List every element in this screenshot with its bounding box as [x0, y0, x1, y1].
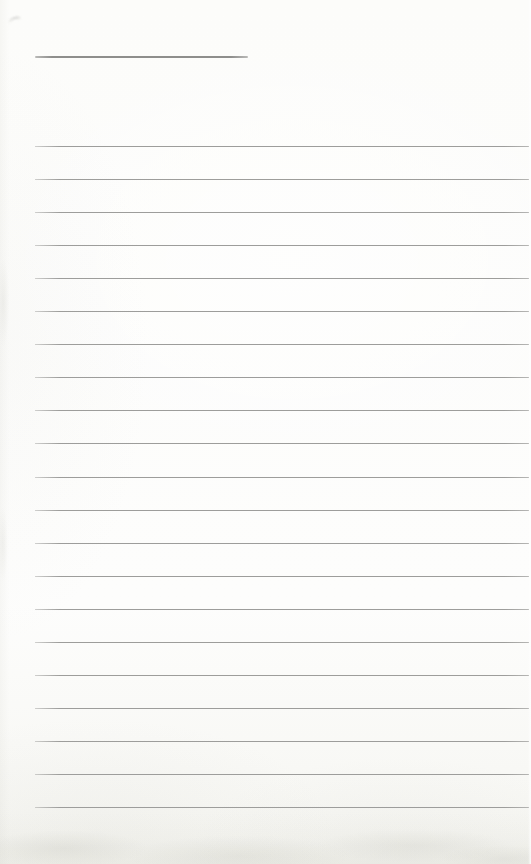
bottom-scan-shading [0, 812, 531, 864]
ruled-line [35, 609, 529, 610]
ruled-line [35, 311, 529, 312]
ruled-line [35, 510, 529, 511]
ruled-line [35, 278, 529, 279]
ruled-line [35, 443, 529, 444]
ruled-line [35, 212, 529, 213]
left-page-edge-shading [0, 0, 11, 864]
ruled-line [35, 774, 529, 775]
ruled-line [35, 410, 529, 411]
ruled-line [35, 477, 529, 478]
ruled-line [35, 377, 529, 378]
ruled-line [35, 807, 529, 808]
scanned-notebook-page [0, 0, 531, 864]
ruled-line [35, 741, 529, 742]
ruled-line [35, 344, 529, 345]
ruled-line [35, 642, 529, 643]
pencil-smudge-mark [8, 16, 21, 27]
ruled-line [35, 179, 529, 180]
ruled-line [35, 146, 529, 147]
ruled-line [35, 543, 529, 544]
ruled-line [35, 576, 529, 577]
ruled-line [35, 675, 529, 676]
ruled-line [35, 708, 529, 709]
title-underline-rule [35, 56, 248, 58]
ruled-line [35, 245, 529, 246]
